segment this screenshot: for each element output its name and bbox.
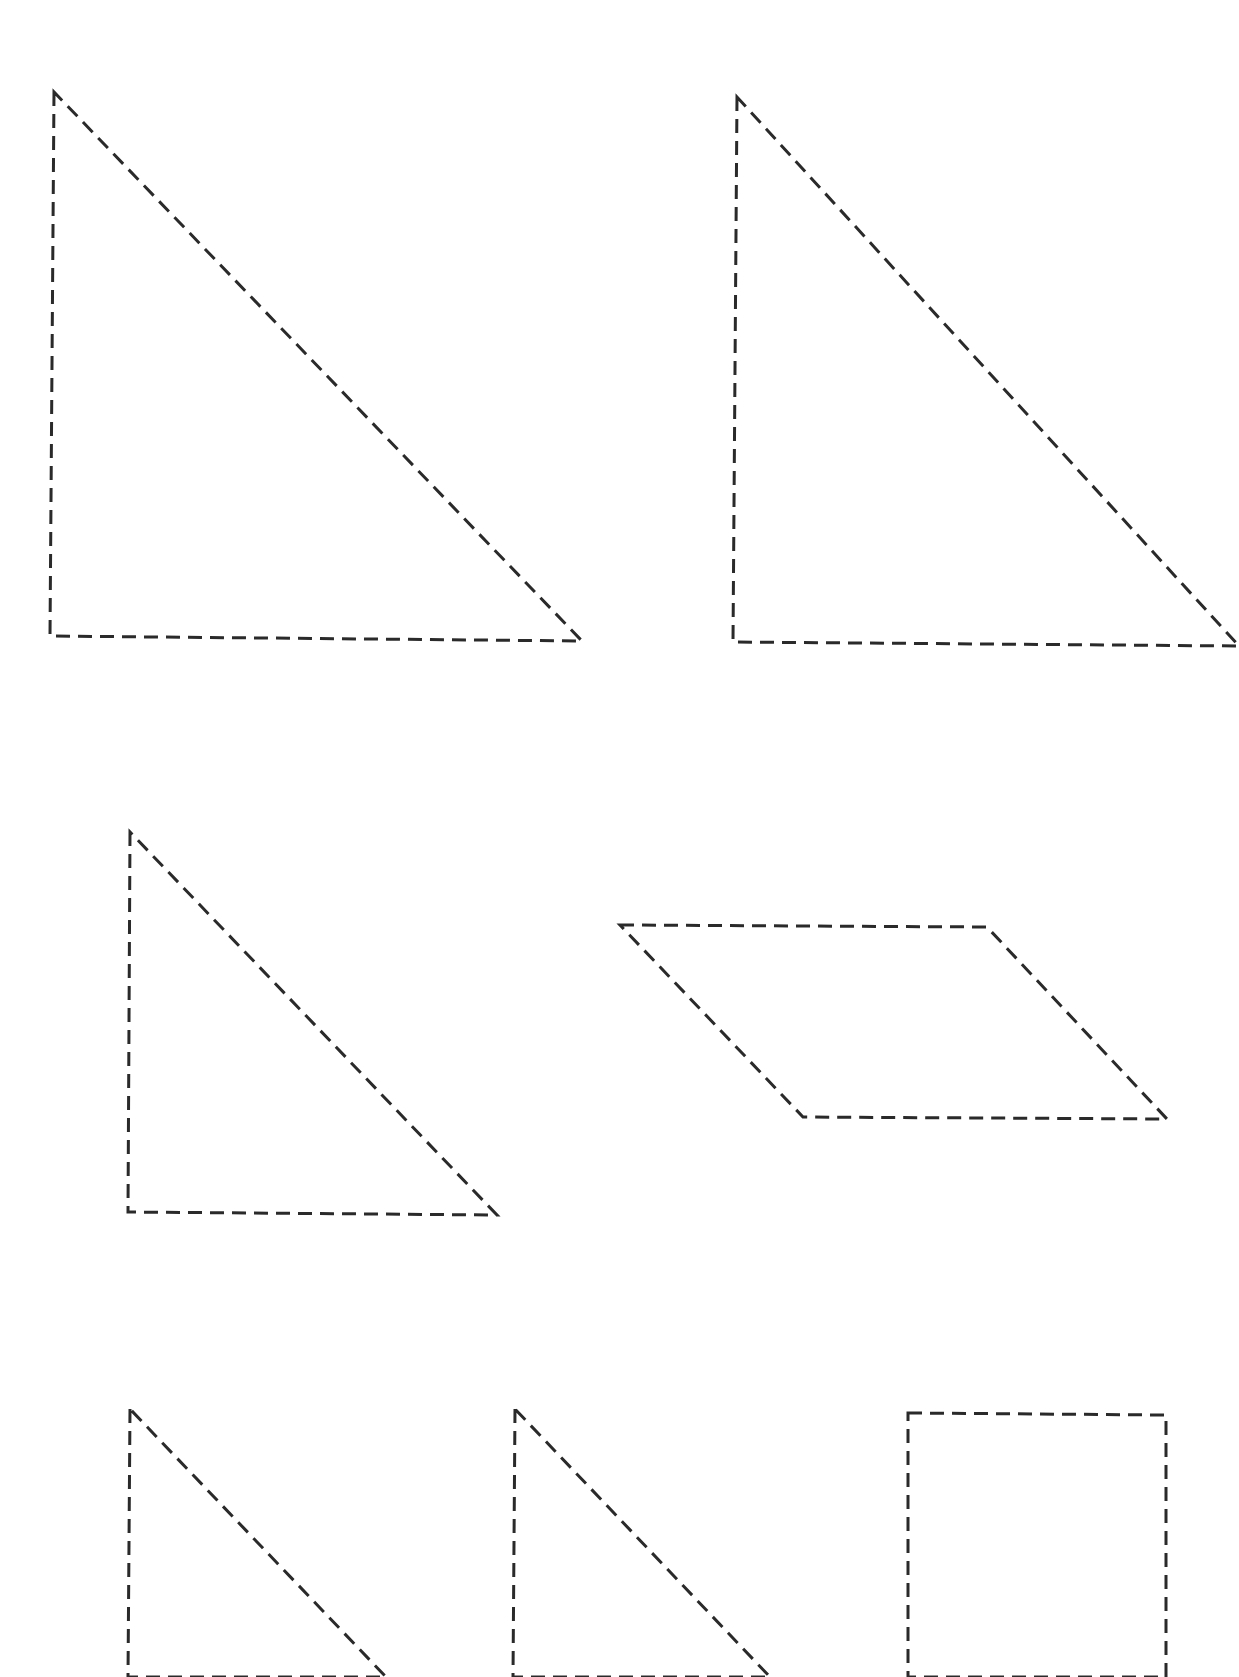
- large-triangle-2: [733, 97, 1239, 646]
- square: [908, 1413, 1166, 1677]
- large-triangle-1: [50, 92, 582, 641]
- small-triangle-1: [128, 1409, 386, 1677]
- small-triangle-2: [513, 1409, 770, 1677]
- parallelogram: [620, 925, 1167, 1119]
- medium-triangle: [128, 832, 497, 1215]
- tangram-sheet: [0, 0, 1239, 1677]
